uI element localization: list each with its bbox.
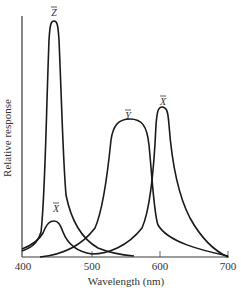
x-bar-secondary-label: X: [52, 203, 60, 214]
x-tick-label-700: 700: [220, 260, 237, 272]
x-bar-curve: [22, 107, 228, 257]
color-matching-chart: Z Y X X 400 500 600 700 Wavelength (nm) …: [0, 0, 241, 291]
y-axis-title: Relative response: [1, 99, 13, 177]
x-axis-title: Wavelength (nm): [88, 275, 165, 288]
z-bar-label: Z: [51, 7, 57, 18]
z-bar-curve: [22, 21, 134, 256]
x-bar-label: X: [159, 96, 167, 107]
x-tick-label-600: 600: [152, 260, 169, 272]
x-tick-label-500: 500: [84, 260, 101, 272]
x-tick-label-400: 400: [15, 260, 32, 272]
